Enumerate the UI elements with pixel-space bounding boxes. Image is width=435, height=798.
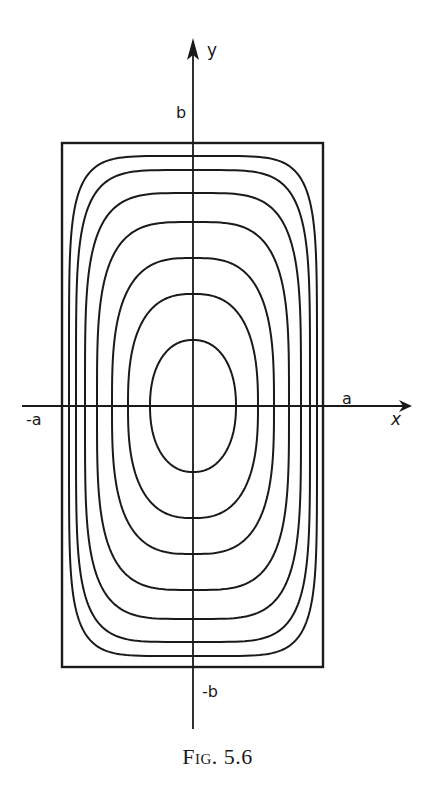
tick-label-neg-b: -b	[202, 682, 218, 701]
x-axis-label: x	[390, 409, 402, 429]
contour-diagram: y x b -b a -a	[0, 0, 435, 798]
tick-label-a: a	[342, 389, 352, 408]
figure-caption: Fig. 5.6	[0, 744, 435, 770]
tick-label-neg-a: -a	[26, 410, 42, 429]
y-axis-label: y	[207, 40, 217, 60]
tick-label-b: b	[176, 103, 186, 122]
